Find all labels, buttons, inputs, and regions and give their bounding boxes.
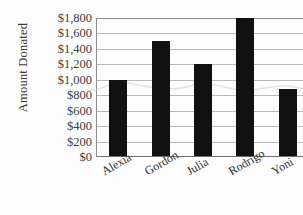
y-axis-tick-label: $1,400 bbox=[36, 43, 92, 56]
bar bbox=[109, 80, 127, 157]
y-axis-tick-label: $1,000 bbox=[36, 74, 92, 87]
y-axis-tick-label: $1,800 bbox=[36, 12, 92, 25]
bar-chart-screenshot: Amount Donated $1,800$1,600$1,400$1,200$… bbox=[0, 0, 303, 215]
y-axis-tick-label: $1,600 bbox=[36, 27, 92, 40]
y-axis-tick-label: $400 bbox=[36, 120, 92, 133]
y-axis-tick-label: $600 bbox=[36, 104, 92, 117]
x-axis-label-julia: Julia bbox=[184, 155, 211, 179]
bar-series bbox=[97, 18, 303, 157]
y-axis-tick-label: $0 bbox=[36, 151, 92, 164]
bar bbox=[152, 41, 170, 157]
y-axis-tick-labels: $1,800$1,600$1,400$1,200$1,000$800$600$4… bbox=[36, 18, 92, 157]
y-axis-tick-label: $800 bbox=[36, 89, 92, 102]
bar bbox=[194, 64, 212, 157]
y-axis-title: Amount Donated bbox=[16, 0, 31, 138]
x-axis-category-labels: AlexiaGordonJuliaRodrigoYoni bbox=[96, 160, 303, 215]
cropped-title-fragment bbox=[150, 0, 270, 5]
y-axis-tick-label: $200 bbox=[36, 135, 92, 148]
x-axis-label-yoni: Yoni bbox=[269, 155, 296, 179]
plot-area bbox=[96, 18, 303, 157]
bar bbox=[236, 18, 254, 157]
bar bbox=[279, 89, 297, 157]
y-axis-tick-label: $1,200 bbox=[36, 58, 92, 71]
